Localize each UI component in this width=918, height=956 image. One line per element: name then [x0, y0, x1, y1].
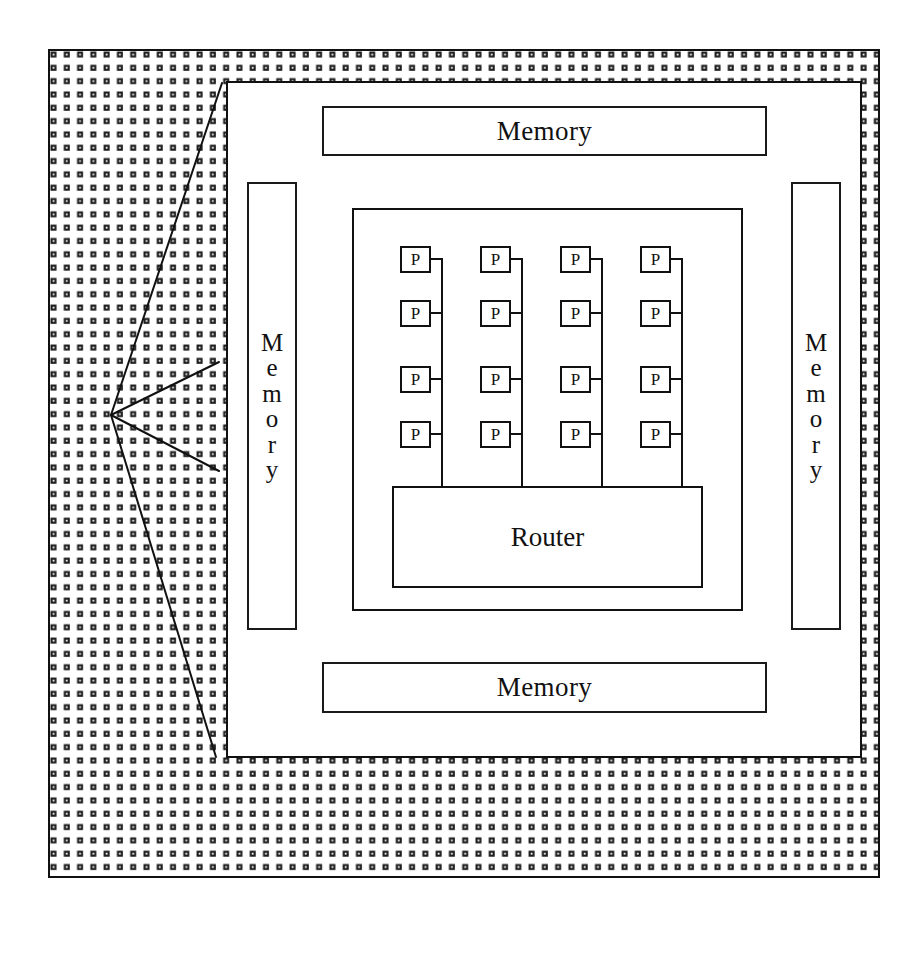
- processor-cell[interactable]: P: [560, 366, 591, 393]
- processor-cell[interactable]: P: [480, 246, 511, 273]
- diagram-root: Memory M e m o r y M e m o r y Memory P …: [0, 0, 918, 956]
- processor-link: [511, 312, 523, 314]
- processor-link: [511, 433, 523, 435]
- memory-left-letter-2: e: [266, 355, 277, 381]
- processor-label: P: [491, 425, 500, 445]
- memory-left-letter-5: r: [268, 432, 276, 458]
- memory-block-bottom[interactable]: Memory: [322, 662, 767, 713]
- memory-block-left[interactable]: M e m o r y: [247, 182, 297, 630]
- processor-label: P: [651, 425, 660, 445]
- processor-label: P: [411, 250, 420, 270]
- memory-left-letter-6: y: [266, 457, 279, 483]
- processor-link: [511, 378, 523, 380]
- processor-link: [671, 378, 683, 380]
- processor-label: P: [651, 304, 660, 324]
- memory-top-label: Memory: [497, 116, 592, 147]
- processor-cell[interactable]: P: [480, 300, 511, 327]
- processor-cell[interactable]: P: [560, 300, 591, 327]
- processor-label: P: [571, 370, 580, 390]
- processor-cell[interactable]: P: [560, 246, 591, 273]
- processor-label: P: [411, 304, 420, 324]
- processor-label: P: [651, 250, 660, 270]
- processor-label: P: [571, 425, 580, 445]
- processor-link: [431, 433, 443, 435]
- processor-link: [511, 258, 523, 260]
- memory-right-letter-4: o: [810, 406, 823, 432]
- processor-link: [671, 312, 683, 314]
- processor-link: [431, 378, 443, 380]
- processor-link: [591, 258, 603, 260]
- processor-link: [431, 258, 443, 260]
- processor-cell[interactable]: P: [560, 421, 591, 448]
- bus-line-column-1: [441, 258, 443, 488]
- memory-right-letter-5: r: [812, 432, 820, 458]
- memory-right-letter-1: M: [805, 330, 827, 356]
- bus-line-column-3: [601, 258, 603, 488]
- processor-label: P: [491, 370, 500, 390]
- processor-label: P: [571, 304, 580, 324]
- processor-cell[interactable]: P: [640, 300, 671, 327]
- memory-left-letter-1: M: [261, 330, 283, 356]
- processor-cell[interactable]: P: [480, 366, 511, 393]
- processor-label: P: [571, 250, 580, 270]
- memory-right-letter-6: y: [810, 457, 823, 483]
- bus-line-column-2: [521, 258, 523, 488]
- processor-cell[interactable]: P: [480, 421, 511, 448]
- processor-link: [671, 433, 683, 435]
- memory-right-letter-3: m: [806, 381, 825, 407]
- memory-right-letter-2: e: [810, 355, 821, 381]
- processor-label: P: [651, 370, 660, 390]
- processor-cell[interactable]: P: [400, 421, 431, 448]
- processor-label: P: [411, 370, 420, 390]
- processor-cell[interactable]: P: [640, 366, 671, 393]
- memory-block-right[interactable]: M e m o r y: [791, 182, 841, 630]
- processor-link: [591, 378, 603, 380]
- processor-link: [591, 312, 603, 314]
- processor-cell[interactable]: P: [400, 246, 431, 273]
- bus-line-column-4: [681, 258, 683, 488]
- memory-block-top[interactable]: Memory: [322, 106, 767, 156]
- router-block[interactable]: Router: [392, 486, 703, 588]
- processor-cell[interactable]: P: [640, 421, 671, 448]
- memory-bottom-label: Memory: [497, 672, 592, 703]
- processor-label: P: [411, 425, 420, 445]
- processor-cell[interactable]: P: [640, 246, 671, 273]
- memory-left-letter-3: m: [262, 381, 281, 407]
- router-label: Router: [511, 522, 585, 553]
- processor-label: P: [491, 250, 500, 270]
- memory-left-letter-4: o: [266, 406, 279, 432]
- processor-link: [591, 433, 603, 435]
- processor-cell[interactable]: P: [400, 366, 431, 393]
- processor-link: [671, 258, 683, 260]
- processor-cell[interactable]: P: [400, 300, 431, 327]
- processor-label: P: [491, 304, 500, 324]
- processor-link: [431, 312, 443, 314]
